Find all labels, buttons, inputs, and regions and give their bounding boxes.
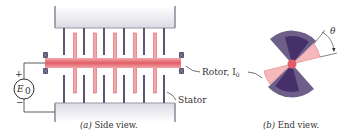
end-view: θ	[264, 26, 337, 97]
end-view-rotor-leader	[248, 72, 262, 78]
end-view-caption: (b) End view.	[263, 120, 319, 130]
rotor-leader	[186, 66, 200, 72]
plus-sign: +	[15, 69, 23, 79]
diagram-canvas: E 0 + − Rotor, I0 Stator (a) Side view. …	[0, 0, 356, 138]
side-view-caption: (a) Side view.	[80, 120, 138, 130]
rotor-rod	[45, 58, 181, 68]
theta-label: θ	[330, 26, 336, 36]
rotor-hub	[288, 60, 297, 69]
side-view: E 0 + − Rotor, I0 Stator (a) Side view.	[14, 6, 240, 130]
source-subscript: 0	[25, 86, 31, 96]
source-label: E	[16, 84, 24, 94]
rotor-label: Rotor, I0	[202, 67, 240, 78]
stator-leader	[167, 92, 176, 100]
stator-label: Stator	[178, 95, 207, 105]
minus-sign: −	[16, 97, 24, 107]
stator-block-top	[55, 6, 175, 28]
